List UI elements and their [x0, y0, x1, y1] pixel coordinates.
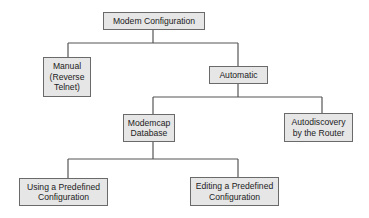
- node-using-predefined-configuration: Using a Predefined Configuration: [19, 178, 108, 206]
- node-modemcap-database: Modemcap Database: [123, 114, 175, 142]
- modem-configuration-tree-diagram: Modem Configuration Manual (Reverse Teln…: [0, 0, 369, 218]
- node-editing-predefined-configuration: Editing a Predefined Configuration: [190, 177, 279, 206]
- node-manual-reverse-telnet: Manual (Reverse Telnet): [43, 57, 91, 97]
- node-modem-configuration: Modem Configuration: [103, 12, 205, 30]
- node-automatic: Automatic: [209, 66, 268, 84]
- node-autodiscovery-by-router: Autodiscovery by the Router: [284, 113, 353, 142]
